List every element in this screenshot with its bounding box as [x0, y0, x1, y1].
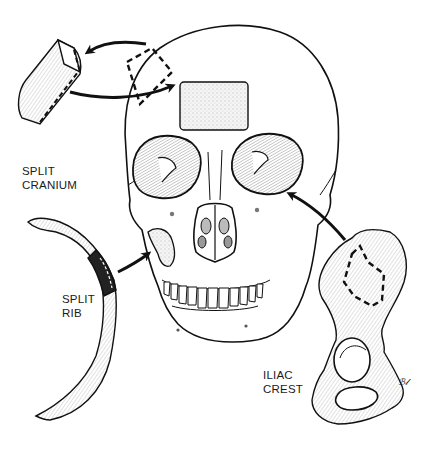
- arrow-cranium-out: [88, 42, 146, 52]
- label-iliac-crest: ILIAC CREST: [263, 368, 303, 396]
- label-split-cranium-line2: CRANIUM: [22, 178, 77, 192]
- skull: [125, 25, 338, 342]
- bone-graft-illustration: [0, 0, 431, 453]
- iliac-bone: [312, 230, 406, 424]
- right-orbit: [232, 134, 303, 194]
- label-split-cranium: SPLIT CRANIUM: [22, 164, 77, 192]
- artist-signature: ℬ𝓁: [398, 377, 408, 388]
- split-cranium-graft: [19, 40, 81, 124]
- label-iliac-crest-line2: CREST: [263, 382, 303, 396]
- forehead-graft: [180, 82, 248, 130]
- arrow-rib-to-maxilla: [118, 254, 148, 272]
- label-split-rib-line1: SPLIT: [62, 292, 95, 306]
- label-iliac-crest-line1: ILIAC: [263, 368, 303, 382]
- acetabulum: [334, 338, 370, 382]
- label-split-rib-line2: RIB: [62, 306, 95, 320]
- label-split-rib: SPLIT RIB: [62, 292, 95, 320]
- label-split-cranium-line1: SPLIT: [22, 164, 77, 178]
